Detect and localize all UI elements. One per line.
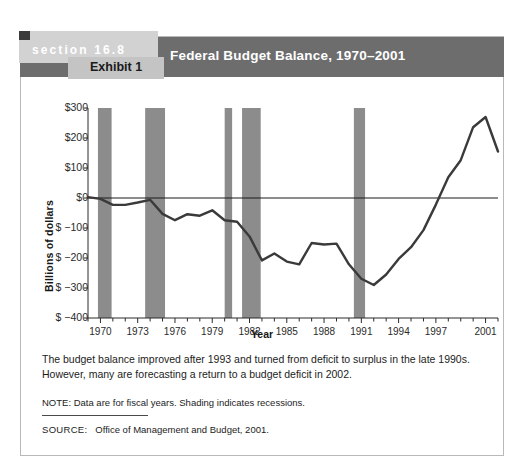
chart-area: Billions of dollars $300$200$100$0$ −100… xyxy=(20,90,504,345)
caption-line-1: The budget balance improved after 1993 a… xyxy=(42,353,470,365)
recession-band xyxy=(242,108,261,318)
budget-balance-line-chart xyxy=(20,90,504,345)
recession-band xyxy=(225,108,232,318)
source-text: Office of Management and Budget, 2001. xyxy=(95,424,269,435)
page-title: Federal Budget Balance, 1970–2001 xyxy=(170,48,405,63)
corner-marker-icon xyxy=(19,31,30,40)
source-label: SOURCE: xyxy=(42,424,87,435)
caption-source: SOURCE: Office of Management and Budget,… xyxy=(42,424,482,435)
section-label: section 16.8 xyxy=(32,43,126,57)
recession-band xyxy=(98,108,112,318)
x-axis-title: Year xyxy=(20,328,504,340)
recession-band xyxy=(354,108,365,318)
caption-text: The budget balance improved after 1993 a… xyxy=(42,352,482,382)
caption-line-2: However, many are forecasting a return t… xyxy=(42,368,352,380)
exhibit-label: Exhibit 1 xyxy=(90,60,142,74)
caption-note: NOTE: Data are for fiscal years. Shading… xyxy=(42,397,482,408)
caption-divider xyxy=(42,415,148,416)
